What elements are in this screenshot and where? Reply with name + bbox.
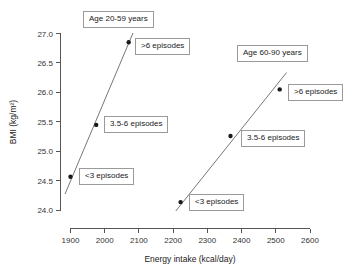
point-label-left-mid: 3.5-6 episodes [104, 116, 168, 133]
x-tick-label: 2000 [96, 236, 114, 245]
chart-figure: 27.0 26.5 26.0 25.5 25.0 24.5 24.0 1900 … [0, 0, 358, 272]
y-tick-label: 26.0 [37, 88, 53, 97]
y-tick-label: 24.5 [37, 177, 53, 186]
point-label-right-low: <3 episodes [189, 194, 244, 211]
point-label-left-high: >6 episodes [135, 38, 190, 55]
data-point [127, 40, 131, 44]
y-tick-label: 26.5 [37, 59, 53, 68]
group-label-age-60-90: Age 60-90 years [237, 45, 308, 62]
y-tick-label: 24.0 [37, 206, 53, 215]
data-point [278, 87, 282, 91]
x-tick-label: 1900 [62, 236, 80, 245]
x-tick-label: 2400 [233, 236, 251, 245]
point-label-right-mid: 3.5-6 episodes [241, 130, 305, 147]
x-tick-label: 2300 [198, 236, 216, 245]
data-point [178, 200, 182, 204]
point-label-right-high: >6 episodes [288, 84, 343, 101]
y-tick-label: 25.0 [37, 147, 53, 156]
point-label-left-low: <3 episodes [79, 168, 134, 185]
y-tick-label: 27.0 [37, 30, 53, 39]
data-point [68, 175, 72, 179]
x-tick-label: 2200 [164, 236, 182, 245]
x-axis-title: Energy intake (kcal/day) [144, 254, 235, 264]
x-tick-label: 2600 [301, 236, 319, 245]
data-point [228, 134, 232, 138]
y-tick-label: 25.5 [37, 118, 53, 127]
group-label-age-20-59: Age 20-59 years [83, 11, 154, 28]
x-tick-label: 2100 [130, 236, 148, 245]
y-axis-title: BMI (kg/m²) [8, 100, 18, 145]
data-point [94, 123, 98, 127]
x-tick-label: 2500 [267, 236, 285, 245]
